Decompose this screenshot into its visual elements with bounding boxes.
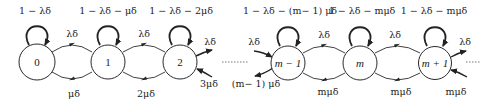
state-label-m: m xyxy=(356,57,364,69)
rate-label-m-m-1: mμδ xyxy=(318,86,339,97)
state-label-0: 0 xyxy=(34,56,40,68)
edge-m-1-to-m xyxy=(303,46,345,53)
self-loop-m xyxy=(349,27,370,46)
state-label-m-1: m − 1 xyxy=(275,57,301,69)
edge-m-to-m+1 xyxy=(375,46,420,53)
self-loops xyxy=(26,26,445,46)
edge-in-to-m-1-lambda xyxy=(254,51,272,57)
rate-label-2-1: 2μδ xyxy=(137,88,155,99)
arrow-m-to-m-1 xyxy=(321,78,327,82)
self-loop-m+1 xyxy=(424,27,445,46)
self-loop-label-m+1: 1 − λδ − mμδ xyxy=(401,5,468,16)
self-loop-label-1: 1 − λδ − μδ xyxy=(79,5,137,16)
rate-label-0-1: λδ xyxy=(66,28,78,39)
arrow-2-to-1 xyxy=(141,77,147,81)
state-label-1: 1 xyxy=(105,56,111,68)
edge-1-to-0 xyxy=(52,72,92,79)
self-loop-0 xyxy=(26,26,47,45)
edge-0-to-1 xyxy=(52,45,92,52)
rate-label-m-1-m: λδ xyxy=(318,29,330,40)
self-loop-labels: 1 − λδ 1 − λδ − μδ 1 − λδ − 2μδ 1 − λδ −… xyxy=(19,5,468,16)
self-loop-label-2: 1 − λδ − 2μδ xyxy=(149,5,213,16)
state-label-2: 2 xyxy=(177,56,183,68)
rate-label-in-2: 3μδ xyxy=(200,78,218,89)
edge-in-to-m+1-mu xyxy=(451,70,467,77)
rate-label-in-m+1: mμδ xyxy=(446,86,467,97)
self-loop-2 xyxy=(169,26,190,45)
edge-2-to-1 xyxy=(123,72,165,79)
self-loop-m-1 xyxy=(277,27,298,46)
edge-in-to-2-3mu xyxy=(197,69,212,77)
forward-edge-labels: λδ λδ λδ λδ λδ λδ λδ xyxy=(66,28,471,47)
edge-2-out-lambda xyxy=(196,50,212,56)
edge-m-1-out-mu xyxy=(255,68,273,76)
self-loop-label-m-1: 1 − λδ − (m− 1) μδ xyxy=(243,5,337,16)
arrow-1-to-0 xyxy=(69,77,75,81)
rate-label-2-out: λδ xyxy=(204,36,216,47)
rate-label-m-1-out: (m− 1) μδ xyxy=(232,78,281,89)
self-loop-label-0: 1 − λδ xyxy=(19,5,51,16)
rate-label-m+1-m: mμδ xyxy=(391,86,412,97)
backward-edge-labels: μδ 2μδ 3μδ (m− 1) μδ mμδ mμδ mμδ xyxy=(68,78,467,99)
rate-label-m-m+1: λδ xyxy=(389,29,401,40)
state-label-m+1: m + 1 xyxy=(422,57,448,69)
rate-label-1-0: μδ xyxy=(68,88,80,99)
arrow-m+1-to-m xyxy=(394,78,400,82)
edge-1-to-2 xyxy=(123,45,165,52)
self-loop-1 xyxy=(97,26,118,45)
rate-label-in-m-1: λδ xyxy=(248,36,260,47)
self-loop-label-m: 1 − λδ − mμδ xyxy=(329,5,396,16)
rate-label-1-2: λδ xyxy=(138,28,150,39)
markov-chain-diagram: 0 1 2 m − 1 m m + 1 1 − λδ 1 − λδ − μδ 1… xyxy=(0,0,495,102)
edge-m+1-out-lambda xyxy=(451,51,466,57)
edge-m-to-m-1 xyxy=(303,73,345,80)
rate-label-m+1-out: λδ xyxy=(459,36,471,47)
